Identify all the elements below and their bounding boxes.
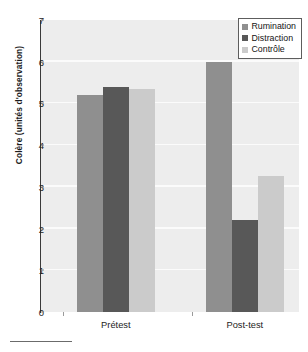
legend: Rumination Distraction Contrôle [238,18,303,59]
bar [103,87,129,312]
plot-area [41,20,299,312]
y-tick-mark [41,228,44,229]
legend-label-rumination: Rumination [252,22,297,31]
y-tick-mark [41,61,44,62]
legend-item: Distraction [242,34,297,43]
y-tick-mark [41,270,44,271]
gridline [41,60,299,62]
legend-label-distraction: Distraction [252,34,294,43]
x-tick-label: Prétest [101,320,130,330]
caption-divider [10,341,72,342]
legend-swatch-controle [242,47,248,53]
legend-item: Rumination [242,22,297,31]
y-tick-mark [41,186,44,187]
legend-item: Contrôle [242,45,297,54]
y-tick-mark [41,20,44,21]
x-tick-mark [63,312,64,316]
y-tick-mark [41,103,44,104]
bar-chart: Colère (unités d'observation) 01234567 P… [0,0,308,352]
legend-swatch-distraction [242,35,248,41]
legend-swatch-rumination [242,24,248,30]
bar [77,95,103,312]
bar [232,220,258,312]
legend-label-controle: Contrôle [252,45,285,54]
y-tick-mark [41,145,44,146]
bar [129,89,155,312]
y-tick-mark [41,312,44,313]
x-tick-mark [192,312,193,316]
x-tick-label: Post-test [226,320,263,330]
bar [258,176,284,312]
bar [206,62,232,312]
